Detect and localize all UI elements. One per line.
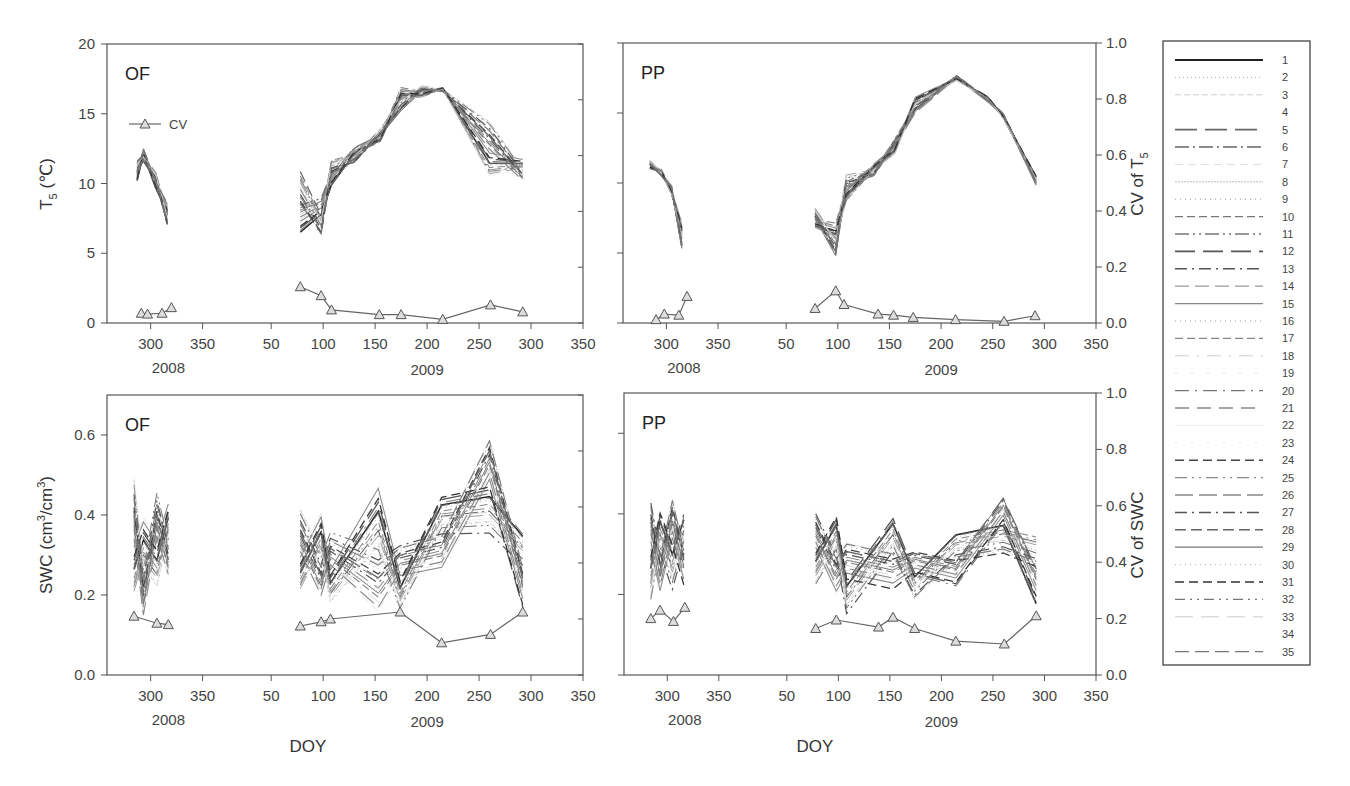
plot-frame bbox=[624, 393, 1096, 675]
site-line-3 bbox=[300, 87, 522, 224]
x-tick-label: 100 bbox=[311, 687, 336, 704]
site-line-18 bbox=[300, 469, 522, 602]
legend-label: 10 bbox=[1282, 211, 1294, 223]
site-line-14 bbox=[300, 86, 522, 221]
triangle-marker-icon bbox=[811, 623, 821, 632]
y-tick-label: 0.2 bbox=[74, 586, 95, 603]
x-tick-label: 100 bbox=[826, 687, 851, 704]
site-line-27 bbox=[650, 163, 682, 241]
x-tick-label: 50 bbox=[263, 335, 280, 352]
legend-label: 27 bbox=[1282, 506, 1294, 518]
cv-legend-label: CV bbox=[169, 117, 187, 132]
site-line-5 bbox=[650, 164, 682, 245]
y2-axis-title-top-right: CV of T5 bbox=[1128, 152, 1150, 215]
x-axis-title-bottom-left: DOY bbox=[290, 737, 327, 756]
y-tick-label: 0.6 bbox=[74, 426, 95, 443]
legend-label: 5 bbox=[1282, 124, 1288, 136]
y2-tick-label: 0.8 bbox=[1106, 440, 1127, 457]
y2-tick-label: 0.0 bbox=[1106, 314, 1127, 331]
panel-top-right: 0.00.20.40.60.81.03003505010015020025030… bbox=[617, 34, 1127, 378]
site-line-14 bbox=[650, 161, 682, 236]
y-axis-title-bottom-left: SWC (cm3/cm3) bbox=[35, 476, 56, 594]
panel-tag: PP bbox=[641, 63, 665, 83]
legend-label: 32 bbox=[1282, 593, 1294, 605]
year-label-2009: 2009 bbox=[924, 361, 957, 378]
site-line-30 bbox=[650, 162, 682, 238]
triangle-marker-icon bbox=[680, 602, 690, 611]
x-tick-label: 350 bbox=[1083, 687, 1108, 704]
site-line-13 bbox=[650, 164, 682, 246]
y2-tick-label: 1.0 bbox=[1106, 384, 1127, 401]
year-label-2008: 2008 bbox=[668, 711, 701, 728]
x-tick-label: 200 bbox=[929, 687, 954, 704]
site-line-16 bbox=[816, 519, 1036, 599]
triangle-marker-icon bbox=[839, 300, 849, 309]
site-line-6 bbox=[300, 511, 522, 598]
y-tick-label: 5 bbox=[87, 244, 95, 261]
triangle-marker-icon bbox=[129, 611, 139, 620]
x-tick-label: 50 bbox=[778, 687, 795, 704]
legend-label: 9 bbox=[1282, 193, 1288, 205]
site-line-17 bbox=[815, 80, 1036, 237]
x-tick-label: 350 bbox=[706, 687, 731, 704]
panel-bottom-right: 0.00.20.40.60.81.03003505010015020025030… bbox=[618, 384, 1127, 730]
x-tick-label: 350 bbox=[705, 335, 730, 352]
x-tick-label: 100 bbox=[311, 335, 336, 352]
legend-label: 11 bbox=[1282, 228, 1293, 240]
x-tick-label: 250 bbox=[980, 687, 1005, 704]
x-tick-label: 300 bbox=[654, 335, 679, 352]
site-line-22 bbox=[650, 162, 682, 237]
site-line-18 bbox=[300, 89, 522, 215]
x-tick-label: 300 bbox=[138, 335, 163, 352]
site-line-30 bbox=[815, 81, 1036, 244]
panel-top-left: 0510152030035050100150200250300350200820… bbox=[78, 35, 595, 378]
legend-label: 34 bbox=[1282, 628, 1294, 640]
triangle-marker-icon bbox=[659, 309, 669, 318]
x-tick-label: 350 bbox=[190, 687, 215, 704]
site-line-8 bbox=[650, 163, 682, 242]
triangle-marker-icon bbox=[166, 303, 176, 312]
year-label-2009: 2009 bbox=[410, 361, 443, 378]
legend-label: 29 bbox=[1282, 541, 1294, 553]
x-tick-label: 300 bbox=[519, 335, 544, 352]
x-tick-label: 350 bbox=[190, 335, 215, 352]
site-line-14 bbox=[816, 536, 1036, 600]
site-line-17 bbox=[300, 504, 522, 593]
year-label-2008: 2008 bbox=[152, 359, 185, 376]
triangle-marker-icon bbox=[910, 623, 920, 632]
x-tick-label: 200 bbox=[415, 335, 440, 352]
site-line-33 bbox=[650, 161, 682, 235]
x-tick-label: 250 bbox=[980, 335, 1005, 352]
site-line-24 bbox=[650, 164, 682, 245]
legend-label: 7 bbox=[1282, 158, 1288, 170]
site-line-33 bbox=[300, 89, 522, 220]
x-tick-label: 350 bbox=[570, 687, 595, 704]
site-line-3 bbox=[815, 81, 1036, 243]
legend-label: 31 bbox=[1282, 576, 1294, 588]
site-line-31 bbox=[300, 88, 522, 226]
y2-tick-label: 0.2 bbox=[1106, 258, 1127, 275]
x-tick-label: 350 bbox=[1083, 335, 1108, 352]
panel-tag: OF bbox=[125, 415, 150, 435]
year-label-2008: 2008 bbox=[667, 359, 700, 376]
legend-label: 30 bbox=[1282, 559, 1294, 571]
legend-label: 23 bbox=[1282, 437, 1294, 449]
x-tick-label: 250 bbox=[467, 687, 492, 704]
triangle-marker-icon bbox=[486, 629, 496, 638]
site-line-35 bbox=[650, 163, 682, 242]
triangle-marker-icon bbox=[518, 607, 528, 616]
legend-label: 14 bbox=[1282, 280, 1294, 292]
site-series bbox=[651, 498, 1036, 614]
legend-label: 24 bbox=[1282, 454, 1294, 466]
site-line-24 bbox=[300, 89, 522, 232]
y2-tick-label: 1.0 bbox=[1106, 34, 1127, 51]
legend-label: 15 bbox=[1282, 298, 1294, 310]
year-label-2009: 2009 bbox=[410, 713, 443, 730]
year-label-2008: 2008 bbox=[152, 711, 185, 728]
cv-series bbox=[646, 602, 1041, 648]
site-series bbox=[650, 75, 1036, 256]
triangle-marker-icon bbox=[831, 286, 841, 295]
legend-label: 17 bbox=[1282, 332, 1294, 344]
legend-label: 25 bbox=[1282, 472, 1294, 484]
series-legend: 1234567891011121314151617181920212223242… bbox=[1163, 41, 1310, 665]
